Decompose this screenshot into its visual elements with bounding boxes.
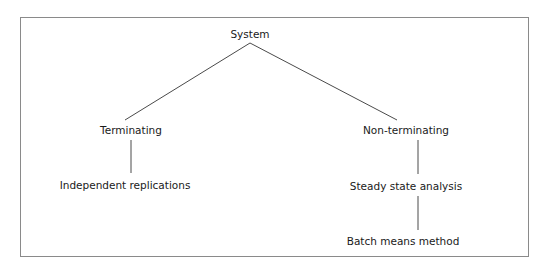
tree-edges [0,0,549,268]
node-independent-replications: Independent replications [60,180,191,191]
edge-system-terminating [125,43,250,120]
node-batch-means-method: Batch means method [347,236,460,247]
edge-system-nonterminating [250,43,397,120]
node-non-terminating: Non-terminating [363,125,449,136]
node-steady-state-analysis: Steady state analysis [350,181,462,192]
node-system: System [230,29,269,40]
node-terminating: Terminating [100,125,162,136]
